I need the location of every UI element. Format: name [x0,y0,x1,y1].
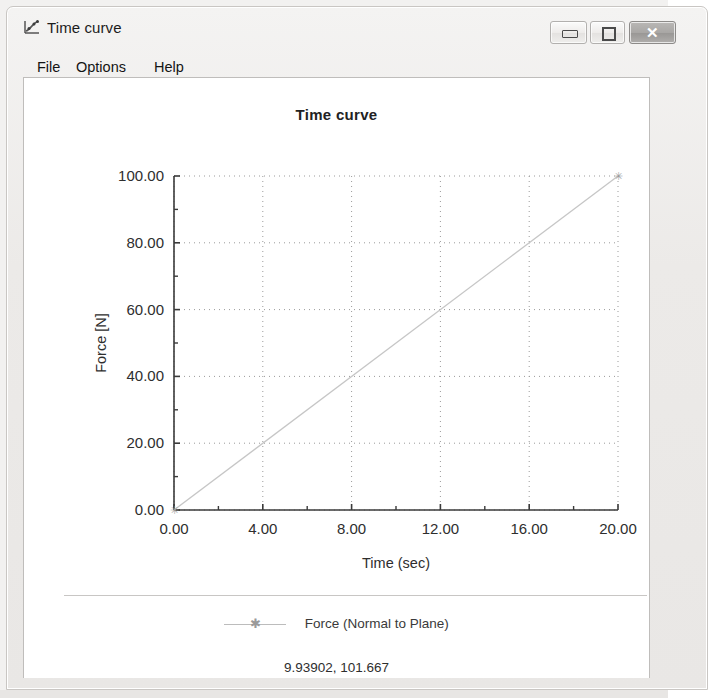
chart-curve-icon [23,18,41,36]
close-button[interactable]: ✕ [629,21,676,44]
y-tick-label: 0.00 [135,501,164,518]
x-tick-label: 16.00 [510,520,548,537]
chart-panel: Time curve 0.004.008.0012.0016.0020.000.… [23,77,650,678]
application-window: Time curve ✕ File Options Help Time curv… [6,6,708,690]
x-tick-label: 0.00 [159,520,188,537]
time-curve-plot[interactable]: 0.004.008.0012.0016.0020.000.0020.0040.0… [24,78,649,593]
menu-item-file[interactable]: File [33,57,64,77]
series-point-marker: ✳ [170,504,179,516]
y-tick-label: 80.00 [126,234,164,251]
minimize-icon [562,30,578,38]
minimize-button[interactable] [550,21,587,44]
x-tick-label: 8.00 [337,520,366,537]
window-title: Time curve [47,19,122,36]
chart-legend: ✱ Force (Normal to Plane) [24,614,649,632]
x-tick-label: 4.00 [248,520,277,537]
x-axis-label: Time (sec) [362,555,430,571]
menu-item-help[interactable]: Help [150,57,188,77]
maximize-button[interactable] [590,21,625,44]
y-axis-label: Force [N] [93,313,109,373]
cursor-coordinate-readout: 9.93902, 101.667 [24,660,649,675]
title-bar[interactable]: Time curve ✕ [7,7,707,45]
series-group: ✳✳ [170,170,623,516]
legend-divider [64,595,647,596]
desktop-bottom-strip [0,690,668,698]
menu-item-options[interactable]: Options [72,57,130,77]
series-point-marker: ✳ [614,170,623,182]
star-marker-icon: ✱ [250,618,261,630]
legend-swatch-force: ✱ [224,618,286,630]
y-tick-label: 60.00 [126,301,164,318]
y-tick-label: 20.00 [126,434,164,451]
y-tick-label: 100.00 [118,167,164,184]
menu-bar: File Options Help [7,57,707,79]
maximize-icon [602,27,616,41]
x-tick-label: 20.00 [599,520,637,537]
close-icon: ✕ [630,22,675,43]
y-tick-label: 40.00 [126,367,164,384]
legend-label-force: Force (Normal to Plane) [305,616,449,631]
x-tick-label: 12.00 [422,520,460,537]
series-line [174,176,618,510]
